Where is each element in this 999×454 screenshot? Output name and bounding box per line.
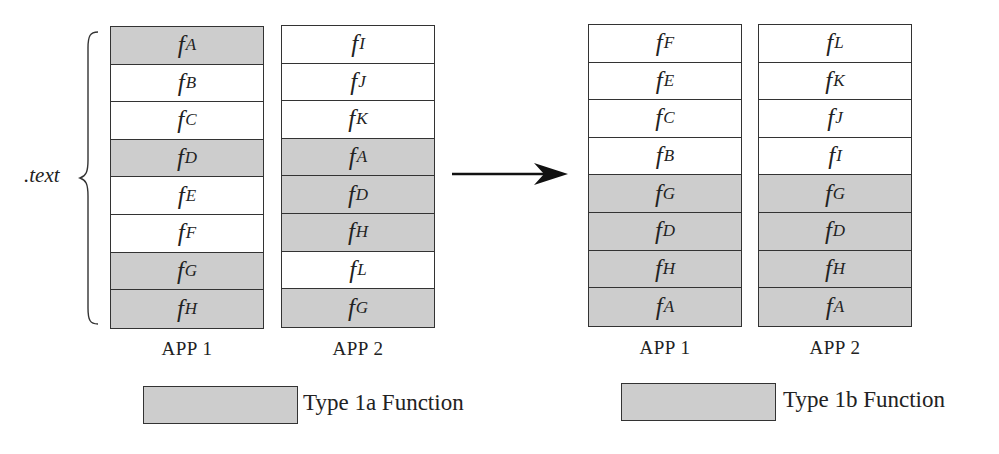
after-app2-label: APP 2 (758, 337, 912, 359)
function-name: f (348, 105, 355, 133)
function-name: f (350, 68, 357, 96)
function-cell-h: fH (589, 251, 741, 289)
function-name: f (655, 104, 662, 132)
function-name: f (656, 142, 663, 170)
function-name: f (178, 31, 185, 59)
function-cell-g: fG (111, 253, 263, 291)
function-subscript: J (835, 108, 843, 128)
function-cell-h: fH (282, 214, 434, 252)
function-name: f (178, 182, 185, 210)
function-name: f (655, 255, 662, 283)
function-subscript: F (186, 223, 196, 243)
function-cell-k: fK (759, 63, 911, 101)
function-cell-f: fF (589, 25, 741, 63)
function-cell-e: fE (111, 177, 263, 215)
function-subscript: I (359, 34, 365, 54)
function-subscript: I (836, 146, 842, 166)
function-subscript: H (185, 299, 197, 319)
function-subscript: C (663, 108, 674, 128)
function-cell-c: fC (111, 102, 263, 140)
function-name: f (826, 29, 833, 57)
function-name: f (826, 293, 833, 321)
function-name: f (177, 106, 184, 134)
function-name: f (349, 143, 356, 171)
function-cell-h: fH (111, 290, 263, 328)
function-name: f (177, 257, 184, 285)
function-name: f (178, 219, 185, 247)
function-subscript: D (185, 148, 197, 168)
function-cell-h: fH (759, 251, 911, 289)
function-name: f (177, 144, 184, 172)
function-name: f (656, 293, 663, 321)
function-subscript: A (834, 297, 844, 317)
function-subscript: A (186, 35, 196, 55)
function-subscript: D (663, 221, 675, 241)
function-name: f (825, 255, 832, 283)
function-subscript: G (833, 184, 845, 204)
function-name: f (348, 181, 355, 209)
function-subscript: G (185, 261, 197, 281)
function-cell-j: fJ (282, 64, 434, 102)
function-name: f (178, 69, 185, 97)
function-subscript: H (356, 222, 368, 242)
function-subscript: C (185, 110, 196, 130)
function-cell-g: fG (282, 289, 434, 327)
function-name: f (348, 218, 355, 246)
after-app1-stack: fFfEfCfBfGfDfHfA (588, 24, 742, 327)
before-app2-stack: fIfJfKfAfDfHfLfG (281, 25, 435, 328)
function-cell-a: fA (111, 27, 263, 65)
function-cell-b: fB (111, 65, 263, 103)
function-name: f (825, 217, 832, 245)
function-cell-e: fE (589, 63, 741, 101)
function-cell-a: fA (589, 288, 741, 326)
section-label-text: .text (24, 163, 60, 188)
legend-label-type-1b: Type 1b Function (783, 387, 945, 413)
function-subscript: G (356, 298, 368, 318)
after-app2-stack: fLfKfJfIfGfDfHfA (758, 24, 912, 327)
function-subscript: L (357, 260, 366, 280)
function-cell-i: fI (759, 138, 911, 176)
function-cell-l: fL (282, 252, 434, 290)
function-subscript: H (833, 259, 845, 279)
function-subscript: J (358, 72, 366, 92)
function-subscript: H (663, 259, 675, 279)
function-cell-g: fG (589, 175, 741, 213)
function-name: f (827, 104, 834, 132)
before-app1-label: APP 1 (110, 338, 264, 360)
after-app1-label: APP 1 (588, 337, 742, 359)
function-name: f (655, 180, 662, 208)
function-cell-a: fA (759, 288, 911, 326)
function-subscript: K (356, 109, 367, 129)
function-subscript: K (833, 71, 844, 91)
function-subscript: D (833, 221, 845, 241)
function-cell-l: fL (759, 25, 911, 63)
function-name: f (349, 256, 356, 284)
function-name: f (348, 294, 355, 322)
function-name: f (828, 142, 835, 170)
function-cell-d: fD (589, 213, 741, 251)
function-cell-d: fD (282, 176, 434, 214)
function-cell-d: fD (111, 140, 263, 178)
legend-swatch-type-1a (143, 386, 298, 424)
function-subscript: B (186, 73, 196, 93)
function-name: f (351, 30, 358, 58)
function-cell-k: fK (282, 101, 434, 139)
function-name: f (825, 180, 832, 208)
function-subscript: L (834, 33, 843, 53)
function-name: f (655, 217, 662, 245)
function-subscript: F (664, 33, 674, 53)
function-cell-g: fG (759, 175, 911, 213)
function-subscript: B (664, 146, 674, 166)
brace-icon (78, 30, 102, 326)
before-app1-stack: fAfBfCfDfEfFfGfH (110, 26, 264, 329)
function-cell-j: fJ (759, 100, 911, 138)
function-subscript: G (663, 184, 675, 204)
legend-label-type-1a: Type 1a Function (303, 390, 464, 416)
function-name: f (656, 67, 663, 95)
function-cell-a: fA (282, 139, 434, 177)
function-subscript: E (664, 71, 674, 91)
before-app2-label: APP 2 (281, 338, 435, 360)
function-subscript: D (356, 185, 368, 205)
function-cell-d: fD (759, 213, 911, 251)
function-subscript: A (664, 297, 674, 317)
